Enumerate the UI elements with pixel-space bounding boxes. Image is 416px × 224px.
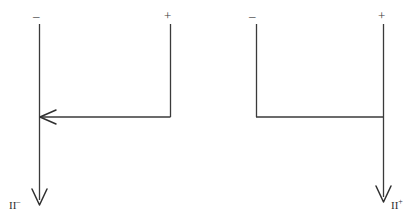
diagram-page: and the direction of the current xyxy=(0,0,416,224)
left-circuit-current-sign: – xyxy=(16,197,20,206)
left-circuit-current-label: II– xyxy=(9,200,20,211)
right-circuit-plus-terminal-label: + xyxy=(378,9,385,22)
left-circuit-minus-terminal-label: – xyxy=(33,9,40,22)
right-circuit-minus-terminal-label: – xyxy=(249,9,256,22)
right-circuit-current-sign: + xyxy=(398,197,403,206)
right-circuit-current-label: II+ xyxy=(391,200,403,211)
circuit-diagram-svg xyxy=(0,0,416,224)
left-circuit-plus-terminal-label: + xyxy=(164,9,171,22)
